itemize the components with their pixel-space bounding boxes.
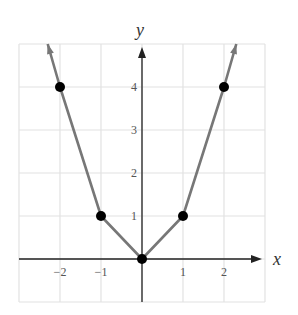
y-axis-arrow-icon — [138, 47, 146, 58]
y-tick-label: 4 — [131, 80, 137, 94]
graph-arrow-icon — [230, 44, 237, 55]
y-tick-label: 2 — [131, 166, 137, 180]
x-axis-arrow-icon — [251, 255, 262, 263]
data-point — [137, 254, 147, 264]
y-tick-label: 1 — [131, 209, 137, 223]
data-point — [96, 211, 106, 221]
y-axis-label: y — [134, 20, 144, 40]
data-point — [219, 82, 229, 92]
x-tick-label: −2 — [54, 265, 67, 279]
data-point — [178, 211, 188, 221]
data-point — [55, 82, 65, 92]
chart: −2−1121234 x y — [0, 0, 298, 315]
x-tick-label: 1 — [180, 265, 186, 279]
x-axis-label: x — [272, 249, 281, 269]
x-tick-label: −1 — [95, 265, 108, 279]
x-tick-label: 2 — [221, 265, 227, 279]
y-tick-label: 3 — [131, 123, 137, 137]
graph-arrow-icon — [47, 44, 54, 55]
tick-labels: −2−1121234 — [54, 80, 227, 279]
